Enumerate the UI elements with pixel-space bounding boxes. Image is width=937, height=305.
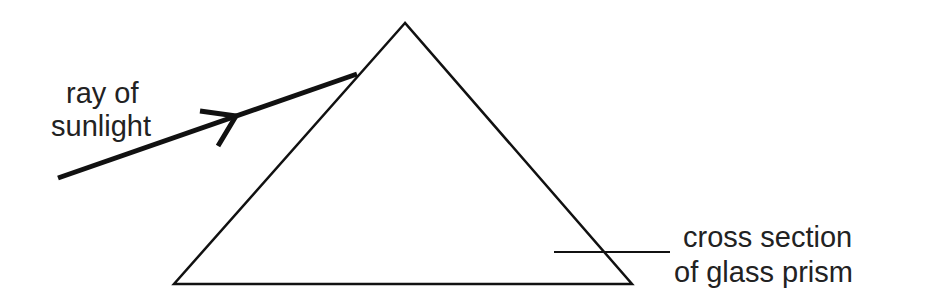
prism-label-line1: cross section (683, 220, 852, 254)
ray-label-line2: sunlight (51, 109, 151, 143)
ray-label-line1: ray of (66, 76, 139, 110)
prism-diagram: ray of sunlight cross section of glass p… (0, 0, 937, 305)
prism-label-line2: of glass prism (674, 255, 853, 289)
glass-prism-triangle (174, 23, 632, 284)
